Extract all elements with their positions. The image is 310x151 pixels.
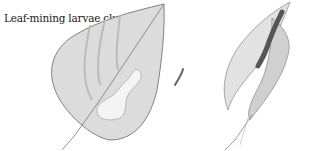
rolled-leaf-illustration (224, 2, 290, 150)
larva-illustration (175, 69, 183, 85)
illustration (0, 0, 310, 151)
mined-leaf-illustration (52, 4, 165, 150)
